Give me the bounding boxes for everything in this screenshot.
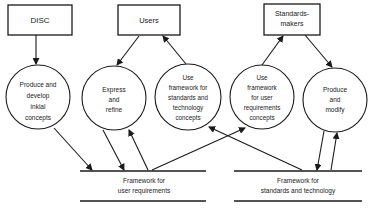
store-label: standards and technology xyxy=(261,187,336,195)
process-use-user-framework: Use framework for user requirements conc… xyxy=(230,65,294,129)
flow-arrow xyxy=(305,35,332,67)
process-label: Express xyxy=(102,86,126,94)
flow-arrow xyxy=(262,36,283,65)
flow-arrow xyxy=(317,131,324,170)
process-produce-develop: Produce and develop inkial concepts xyxy=(6,65,70,129)
process-label: requirements xyxy=(244,104,281,112)
process-label: framework xyxy=(247,84,277,91)
entity-disc: DISC xyxy=(8,5,72,35)
store-label: Framework for xyxy=(123,177,166,184)
entity-label: Standards- xyxy=(275,10,310,17)
process-label: refine xyxy=(106,106,123,113)
process-label: concepts xyxy=(249,114,274,122)
process-label: for user xyxy=(251,94,272,101)
flow-arrow xyxy=(209,127,302,170)
store-user-requirements: Framework for user requirements xyxy=(80,171,206,201)
flow-arrow xyxy=(117,36,139,65)
entity-label: makers xyxy=(281,20,304,27)
entity-label: DISC xyxy=(30,16,49,25)
process-use-std-framework: Use framework for standards and technolo… xyxy=(155,64,221,130)
flow-arrow xyxy=(163,36,186,64)
flow-arrow xyxy=(54,128,92,170)
flow-arrow xyxy=(152,128,245,170)
process-label: concepts xyxy=(175,114,200,122)
store-label: Framework for xyxy=(277,177,320,184)
process-label: Use xyxy=(256,74,268,81)
process-express-refine: Express and refine xyxy=(82,66,146,130)
process-label: Produce xyxy=(323,86,348,93)
process-label: technology xyxy=(173,104,204,112)
flow-arrow xyxy=(129,130,148,170)
process-label: and xyxy=(330,96,341,103)
process-label: concepts xyxy=(25,114,52,122)
process-label: modify xyxy=(325,106,345,114)
process-label: standards and xyxy=(168,94,208,101)
process-label: framework for xyxy=(169,84,208,91)
store-label: user requirements xyxy=(118,187,171,195)
entity-users: Users xyxy=(118,5,180,35)
flow-arrow xyxy=(103,130,124,170)
entity-label: Users xyxy=(139,16,159,25)
process-produce-modify: Produce and modify xyxy=(303,68,367,132)
process-label: Produce and xyxy=(20,81,57,88)
process-label: Use xyxy=(182,74,194,81)
process-label: and xyxy=(109,96,120,103)
entity-standards-makers: Standards- makers xyxy=(264,4,320,35)
process-label: develop xyxy=(27,92,50,100)
store-standards-technology: Framework for standards and technology xyxy=(234,171,362,201)
process-label: inkial xyxy=(31,103,46,110)
flow-arrow xyxy=(331,133,337,170)
dfd-diagram: DISC Users Standards- makers Produce and… xyxy=(0,0,373,208)
